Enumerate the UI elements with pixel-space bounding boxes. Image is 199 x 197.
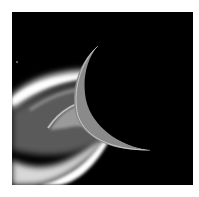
space-image [0,0,199,197]
star-dot [16,61,18,63]
